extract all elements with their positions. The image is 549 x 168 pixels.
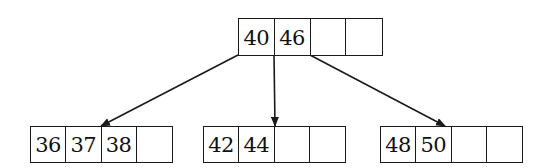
right-leaf-node: 48 50: [380, 126, 523, 163]
leaf-key-cell: 48: [381, 127, 416, 162]
leaf-key-cell: 44: [239, 127, 274, 162]
leaf-key-cell: 36: [31, 127, 66, 162]
leaf-empty-cell: [310, 127, 345, 162]
leaf-empty-cell: [137, 127, 172, 162]
root-key-cell: 40: [239, 19, 275, 55]
leaf-empty-cell: [487, 127, 522, 162]
leaf-key-cell: 42: [204, 127, 239, 162]
edge-root-to-right-leaf: [310, 55, 445, 126]
root-empty-cell: [311, 19, 347, 55]
root-node: 40 46: [238, 18, 383, 56]
left-leaf-node: 36 37 38: [30, 126, 173, 163]
leaf-key-cell: 50: [416, 127, 451, 162]
leaf-key-cell: 38: [102, 127, 137, 162]
middle-leaf-node: 42 44: [203, 126, 346, 163]
edge-root-to-left-leaf: [101, 55, 238, 126]
root-key-cell: 46: [275, 19, 311, 55]
edge-root-to-middle-leaf: [274, 55, 275, 126]
root-empty-cell: [346, 19, 382, 55]
leaf-key-cell: 37: [66, 127, 101, 162]
leaf-empty-cell: [275, 127, 310, 162]
leaf-empty-cell: [452, 127, 487, 162]
